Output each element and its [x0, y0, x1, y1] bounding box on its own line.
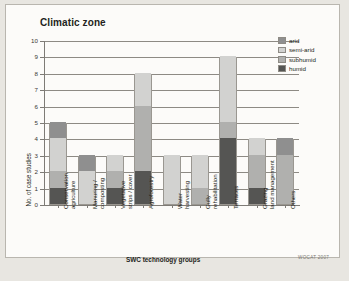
x-category-label: Waterharvesting: [165, 209, 179, 257]
y-tick-label: 1: [22, 186, 38, 192]
y-tick-label: 9: [22, 54, 38, 60]
bar-segment-semi-arid: [220, 56, 236, 122]
x-category-label: Manuring /composting: [80, 209, 94, 257]
bar-segment-subhumid: [220, 122, 236, 138]
x-tick-mark: [228, 205, 229, 208]
legend-swatch-humid: [278, 65, 286, 72]
x-tick-mark: [285, 205, 286, 208]
x-category-label-text: Others: [290, 161, 297, 209]
legend-label: arid: [289, 37, 299, 44]
x-tick-mark: [172, 205, 173, 208]
x-tick-mark: [115, 205, 116, 208]
x-category-label: Conservationagriculture: [51, 209, 65, 257]
x-category-label-text: Agroforestry: [148, 161, 155, 209]
x-category-label: Grazingland management: [250, 209, 264, 257]
x-axis-title: SWC technology groups: [126, 256, 200, 263]
x-tick-mark: [257, 205, 258, 208]
y-axis-title-text: No. of case studies: [25, 153, 32, 207]
bar-segment-semi-arid: [135, 73, 151, 106]
legend-label: semi-arid: [289, 46, 314, 53]
x-tick-mark: [200, 205, 201, 208]
legend-item[interactable]: subhumid: [278, 56, 340, 63]
x-tick-mark: [143, 205, 144, 208]
legend-item[interactable]: humid: [278, 65, 340, 72]
legend-swatch-subhumid: [278, 56, 286, 63]
x-tick-mark: [87, 205, 88, 208]
x-category-label-text: Gullyrehabilitation: [205, 161, 218, 209]
chart-frame: Climatic zone No. of case studies 012345…: [5, 4, 340, 258]
x-category-label: Vegetativestrips / cover: [108, 209, 122, 257]
bar-segment-arid: [50, 122, 66, 138]
y-tick-label: 8: [22, 71, 38, 77]
legend-item[interactable]: semi-arid: [278, 46, 340, 53]
y-tick-label: 2: [22, 169, 38, 175]
x-category-label-text: Conservationagriculture: [63, 161, 76, 209]
legend-swatch-arid: [278, 37, 286, 44]
y-tick-label: 5: [22, 120, 38, 126]
legend-swatch-semi-arid: [278, 47, 286, 54]
y-tick-label: 4: [22, 136, 38, 142]
legend-label: humid: [289, 65, 306, 72]
x-category-label-text: Manuring /composting: [92, 161, 105, 209]
x-category-label-text: Vegetativestrips / cover: [120, 161, 133, 209]
bars-layer: [44, 41, 299, 205]
y-tick-label: 3: [22, 153, 38, 159]
y-tick-label: 0: [22, 202, 38, 208]
bar-segment-semi-arid: [249, 138, 265, 154]
bar-segment-arid: [277, 138, 293, 154]
x-category-label-text: Waterharvesting: [177, 161, 190, 209]
x-category-label: Gullyrehabilitation: [193, 209, 207, 257]
y-tick-label: 7: [22, 87, 38, 93]
y-tick-label: 6: [22, 104, 38, 110]
x-category-label-text: Terraces: [233, 161, 240, 209]
legend-label: subhumid: [289, 56, 316, 63]
page-title: Climatic zone: [40, 17, 106, 28]
x-category-label-text: Grazingland management: [262, 161, 275, 209]
legend: aridsemi-aridsubhumidhumid: [278, 37, 340, 75]
x-category-label: Terraces: [221, 209, 235, 257]
x-category-label: Others: [278, 209, 292, 257]
y-tick-label: 10: [22, 38, 38, 44]
chart-page: Climatic zone No. of case studies 012345…: [0, 0, 349, 281]
source-credit: WOCAT 2007: [298, 255, 329, 260]
legend-item[interactable]: arid: [278, 37, 340, 44]
x-tick-mark: [58, 205, 59, 208]
x-category-label: Agroforestry: [136, 209, 150, 257]
